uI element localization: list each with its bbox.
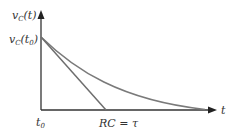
- rc-discharge-diagram: vC(t) vC(t0) t t0 RC = τ: [0, 0, 230, 135]
- y-axis-arrow-icon: [38, 10, 45, 19]
- y-axis-label: vC(t): [12, 9, 37, 23]
- time-constant-label: RC = τ: [98, 117, 139, 130]
- x-axis-label: t: [221, 104, 226, 117]
- initial-value-label: vC(t0): [9, 33, 38, 47]
- t0-label: t0: [36, 116, 45, 130]
- exponential-decay-curve: [41, 37, 205, 110]
- initial-slope-tangent: [41, 37, 106, 110]
- x-axis-arrow-icon: [208, 107, 217, 114]
